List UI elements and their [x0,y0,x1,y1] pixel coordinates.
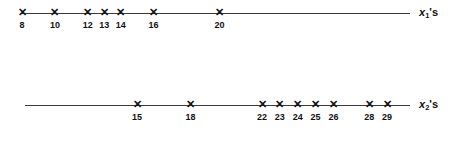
axis-variable-subscript: 2 [425,103,429,112]
data-point-marker: ✕ [48,7,62,18]
x1-number-line-group: ✕8✕10✕12✕13✕14✕16✕20x1's [0,13,461,53]
tick-label: 20 [207,21,231,30]
tick-label: 16 [142,21,166,30]
axis-variable-letter: x1 [419,6,429,18]
tick-label: 15 [125,113,149,122]
axis-variable-subscript: 1 [425,11,429,20]
tick-label: 18 [179,113,203,122]
data-point-marker: ✕ [326,99,340,110]
data-point-marker: ✕ [15,7,29,18]
data-point-marker: ✕ [81,7,95,18]
data-point-marker: ✕ [309,99,323,110]
data-point-marker: ✕ [291,99,305,110]
tick-label: 14 [109,21,133,30]
data-point-marker: ✕ [212,7,226,18]
axis-variable-letter: x2 [419,98,429,110]
data-point-marker: ✕ [380,99,394,110]
data-point-marker: ✕ [184,99,198,110]
data-point-marker: ✕ [255,99,269,110]
number-line-figure: ✕8✕10✕12✕13✕14✕16✕20x1's ✕15✕18✕22✕23✕24… [0,0,461,142]
data-point-marker: ✕ [147,7,161,18]
x2-number-line-axis [25,105,410,106]
data-point-marker: ✕ [114,7,128,18]
tick-label: 8 [10,21,34,30]
tick-label: 10 [43,21,67,30]
x2-number-line-group: ✕15✕18✕22✕23✕24✕25✕26✕28✕29x2's [0,105,461,142]
data-point-marker: ✕ [97,7,111,18]
axis-label-possessive: 's [429,98,438,110]
data-point-marker: ✕ [130,99,144,110]
x2-number-line-label: x2's [419,99,438,110]
tick-label: 26 [321,113,345,122]
tick-label: 29 [375,113,399,122]
data-point-marker: ✕ [273,99,287,110]
data-point-marker: ✕ [362,99,376,110]
axis-label-possessive: 's [429,6,438,18]
x1-number-line-label: x1's [419,7,438,18]
